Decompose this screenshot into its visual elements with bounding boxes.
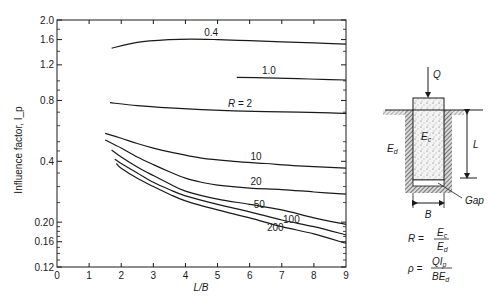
curve-labels: 0.41.0R = 2102050100200 xyxy=(204,27,300,234)
y-axis: 0.120.160.200.40.81.21.62.0 xyxy=(35,15,346,273)
width-label: B xyxy=(425,209,432,220)
y-tick-label: 0.4 xyxy=(40,156,54,167)
svg-text:R =: R = xyxy=(408,233,424,244)
pile-gap xyxy=(413,180,444,186)
curve-r-200 xyxy=(116,164,346,244)
svg-text:BEd: BEd xyxy=(432,271,450,283)
svg-text:Ed: Ed xyxy=(437,241,449,253)
y-tick-label: 2.0 xyxy=(40,15,54,26)
ground-hatch-left xyxy=(383,110,405,115)
curve-label-r-2: R = 2 xyxy=(228,98,253,109)
x-tick-label: 3 xyxy=(151,270,157,281)
ground-hatch-right xyxy=(452,110,464,115)
curve-label-r-100: 100 xyxy=(283,214,300,225)
x-tick-label: 9 xyxy=(343,270,349,281)
x-axis: 0123456789 xyxy=(54,20,349,281)
curve-r-0.4 xyxy=(112,39,346,48)
curve-label-r-1.0: 1.0 xyxy=(262,65,276,76)
x-tick-label: 1 xyxy=(86,270,92,281)
x-axis-title: L/B xyxy=(193,282,208,293)
y-axis-title: Influence factor, I_p xyxy=(13,106,24,194)
y-tick-label: 0.16 xyxy=(35,236,55,247)
x-tick-label: 5 xyxy=(215,270,221,281)
length-label: L xyxy=(473,139,479,150)
stiffness-ratio-formula: R = Ec Ed xyxy=(408,227,449,253)
x-tick-label: 8 xyxy=(311,270,317,281)
x-tick-label: 2 xyxy=(118,270,124,281)
settlement-formula: ρ = QIp BEd xyxy=(407,256,452,283)
curves xyxy=(105,39,346,243)
x-tick-label: 0 xyxy=(54,270,60,281)
y-tick-label: 0.20 xyxy=(35,217,55,228)
svg-text:ρ =: ρ = xyxy=(407,263,423,274)
x-tick-label: 6 xyxy=(247,270,253,281)
curve-r-10 xyxy=(105,133,346,168)
y-tick-label: 1.2 xyxy=(40,59,54,70)
x-tick-label: 4 xyxy=(183,270,189,281)
curve-r-1.0 xyxy=(237,77,346,80)
y-tick-label: 1.6 xyxy=(40,34,54,45)
svg-text:Ec: Ec xyxy=(437,227,448,239)
curve-label-r-20: 20 xyxy=(251,176,263,187)
curve-r-100 xyxy=(115,159,346,235)
y-tick-label: 0.12 xyxy=(35,262,55,273)
curve-r-20 xyxy=(105,140,346,194)
gap-label: Gap xyxy=(465,195,484,206)
influence-factor-chart: 0123456789 0.120.160.200.40.81.21.62.0 0… xyxy=(0,0,504,308)
svg-text:QIp: QIp xyxy=(432,256,447,269)
formulas: R = Ec Ed ρ = QIp BEd xyxy=(407,227,452,283)
y-tick-label: 0.8 xyxy=(40,95,54,106)
load-label: Q xyxy=(433,69,441,80)
pile-diagram: Q Ec Ed L B Gap xyxy=(383,67,484,220)
curve-label-r-0.4: 0.4 xyxy=(204,27,218,38)
x-tick-label: 7 xyxy=(279,270,285,281)
curve-label-r-200: 200 xyxy=(267,222,284,233)
curve-label-r-10: 10 xyxy=(251,151,263,162)
curve-label-r-50: 50 xyxy=(254,199,266,210)
soil-modulus-label: Ed xyxy=(387,143,399,155)
plot-frame xyxy=(57,20,346,267)
